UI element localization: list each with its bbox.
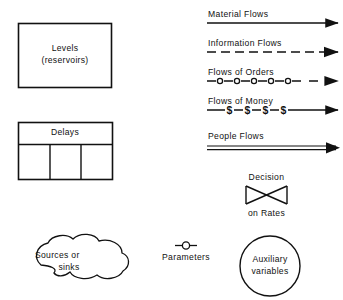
- levels-label-line2: (reservoirs): [41, 55, 88, 65]
- sources-sinks-label-line2: sinks: [35, 261, 80, 273]
- parameters-label: Parameters: [162, 252, 210, 262]
- information-flows-label: Information Flows: [208, 38, 282, 48]
- flows-of-orders-arrow: [207, 78, 338, 83]
- people-flows-arrow: [207, 142, 340, 153]
- delays-label: Delays: [51, 127, 79, 139]
- people-flows-label: People Flows: [208, 131, 264, 141]
- svg-text:$: $: [281, 104, 287, 116]
- parameters-circle-icon: [182, 242, 189, 249]
- decision-label-below: on Rates: [248, 208, 285, 218]
- levels-label: Levels (reservoirs): [41, 43, 88, 66]
- decision-valve-icon: [246, 186, 287, 204]
- material-flows-label: Material Flows: [208, 9, 268, 19]
- levels-label-line1: Levels: [52, 43, 79, 53]
- decision-label-above: Decision: [249, 172, 285, 182]
- flows-of-money-label: Flows of Money: [208, 96, 273, 106]
- sources-sinks-label: Sources or sinks: [35, 249, 80, 274]
- flows-of-orders-label: Flows of Orders: [208, 67, 274, 77]
- auxiliary-label-line2: variables: [251, 266, 288, 276]
- sources-sinks-label-line1: Sources or: [35, 250, 80, 260]
- auxiliary-variables-label: Auxiliary variables: [251, 254, 288, 277]
- auxiliary-label-line1: Auxiliary: [252, 254, 287, 264]
